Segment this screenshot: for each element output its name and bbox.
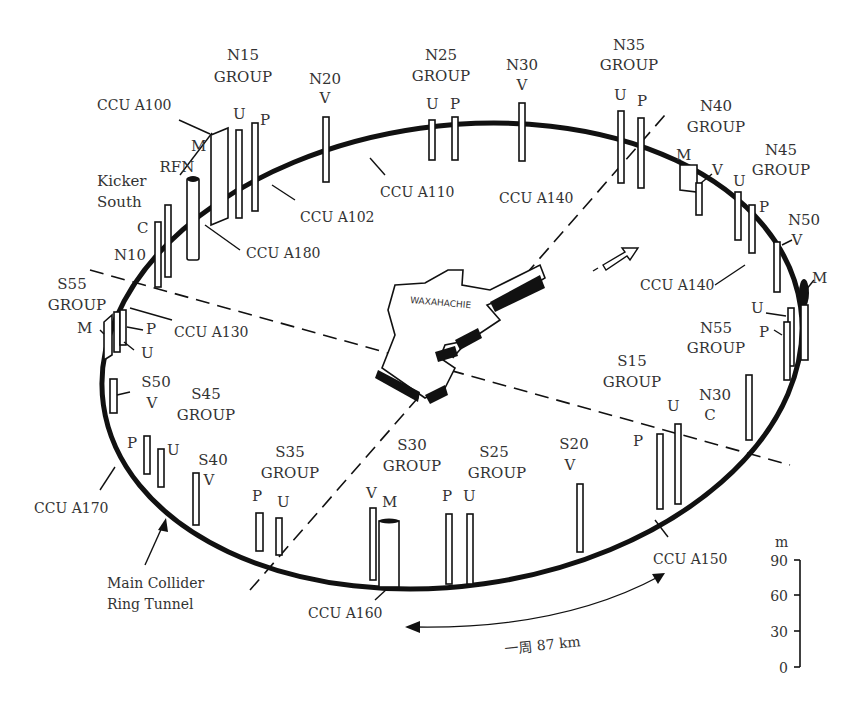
label-s50-line2: V: [146, 394, 159, 412]
scale-tick-0: 0: [779, 660, 788, 676]
svg-text:C: C: [137, 219, 148, 237]
ccu-a140-label-right: CCU A140: [640, 277, 715, 293]
label-s20-line1: S20: [559, 435, 588, 453]
ccu-a110-label: CCU A110: [380, 184, 455, 200]
svg-text:U: U: [733, 172, 746, 190]
svg-text:U: U: [233, 105, 246, 123]
label-s15-line1: S15: [617, 352, 646, 370]
label-s55-line2: GROUP: [48, 296, 106, 314]
label-s30-line2: GROUP: [383, 457, 441, 475]
label-rfn: RFN: [160, 158, 195, 176]
ccu-a180-label: CCU A180: [246, 245, 321, 261]
ccu-a150-label: CCU A150: [653, 551, 728, 567]
ccu-a140-label-top: CCU A140: [499, 190, 574, 206]
label-n45-line2: GROUP: [752, 161, 810, 179]
label-s20-line2: V: [564, 456, 577, 474]
label-n25-line1: N25: [425, 46, 457, 64]
axis-dashed-line-sw-ne: [250, 115, 665, 590]
label-s40-line1: S40: [198, 451, 227, 469]
label-kicker-line2: South: [97, 193, 142, 211]
label-n25-line2: GROUP: [412, 67, 470, 85]
svg-text:P: P: [127, 434, 137, 452]
svg-text:U: U: [614, 86, 627, 104]
svg-text:U: U: [141, 344, 154, 362]
label-s45-line1: S45: [191, 385, 220, 403]
label-n50-line1: N50: [788, 211, 820, 229]
ccu-a170-label: CCU A170: [34, 500, 109, 516]
label-kicker-line1: Kicker: [97, 172, 147, 190]
svg-text:M: M: [382, 493, 397, 511]
label-n30-c-line1: N30: [699, 386, 731, 404]
collider-ring-diagram: WAXAHACHIE: [0, 0, 854, 707]
svg-text:M: M: [191, 137, 206, 155]
scale-tick-30: 30: [770, 624, 788, 640]
circumference-label: 一周 87 km: [504, 633, 582, 657]
svg-text:M: M: [812, 269, 827, 287]
svg-text:U: U: [277, 493, 290, 511]
svg-text:P: P: [442, 487, 452, 505]
height-scale-bar: m 90 60 30 0: [770, 534, 800, 676]
scale-tick-90: 90: [770, 553, 788, 569]
ring-tunnel-label-line2: Ring Tunnel: [107, 596, 194, 612]
label-s35-line2: GROUP: [261, 464, 319, 482]
scale-tick-60: 60: [770, 588, 788, 604]
waxahachie-city-outline: WAXAHACHIE: [375, 265, 545, 404]
svg-text:U: U: [463, 487, 476, 505]
svg-text:P: P: [252, 487, 262, 505]
ccu-a100-label: CCU A100: [97, 97, 172, 113]
svg-text:P: P: [260, 111, 270, 129]
label-n35-line1: N35: [613, 36, 645, 54]
north-arrow-icon: [593, 248, 638, 271]
label-n15-line1: N15: [227, 46, 259, 64]
svg-text:U: U: [426, 95, 439, 113]
label-s50-line1: S50: [141, 373, 170, 391]
label-n15-line2: GROUP: [214, 68, 272, 86]
svg-text:P: P: [450, 95, 460, 113]
svg-text:P: P: [759, 323, 769, 341]
label-n20-line2: V: [319, 89, 332, 107]
svg-text:M: M: [676, 146, 691, 164]
label-n30-c-line2: C: [704, 406, 715, 424]
label-n10: N10: [114, 246, 146, 264]
label-n35-line2: GROUP: [600, 56, 658, 74]
svg-text:U: U: [667, 397, 680, 415]
label-n40-line2: GROUP: [687, 118, 745, 136]
ccu-a102-label: CCU A102: [300, 209, 375, 225]
ring-tunnel-label-line1: Main Collider: [107, 575, 204, 591]
svg-text:P: P: [146, 320, 156, 338]
svg-text:M: M: [77, 319, 92, 337]
svg-text:U: U: [167, 441, 180, 459]
label-s25-line2: GROUP: [468, 464, 526, 482]
svg-text:V: V: [365, 484, 378, 502]
label-s25-line1: S25: [479, 443, 508, 461]
svg-text:P: P: [759, 198, 769, 216]
label-n55-line2: GROUP: [687, 339, 745, 357]
svg-text:P: P: [633, 432, 643, 450]
label-s15-line2: GROUP: [603, 373, 661, 391]
svg-text:U: U: [751, 299, 764, 317]
label-s40-line2: V: [203, 471, 216, 489]
svg-text:P: P: [637, 92, 647, 110]
label-s30-line1: S30: [397, 436, 426, 454]
label-n30-v-line1: N30: [506, 56, 538, 74]
label-n45-line1: N45: [765, 141, 797, 159]
label-n40-line1: N40: [700, 97, 732, 115]
label-s55-line1: S55: [57, 275, 86, 293]
scale-unit: m: [775, 534, 788, 550]
label-n20-line1: N20: [309, 70, 341, 88]
label-n50-line2: V: [791, 231, 804, 249]
svg-text:V: V: [711, 161, 724, 179]
ccu-a160-label: CCU A160: [308, 605, 383, 621]
label-s45-line2: GROUP: [177, 406, 235, 424]
label-n30-v-line2: V: [516, 76, 529, 94]
ccu-a130-label: CCU A130: [174, 324, 249, 340]
label-n55-line1: N55: [700, 319, 732, 337]
label-s35-line1: S35: [275, 443, 304, 461]
